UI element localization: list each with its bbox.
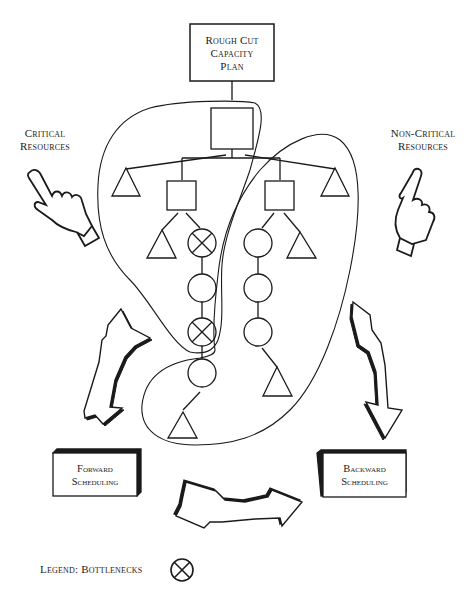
backward-arrow-icon: [350, 302, 402, 440]
label-line: Scheduling: [72, 475, 119, 488]
label-line: Rough Cut: [190, 34, 274, 47]
leaf-triangle: [263, 367, 292, 396]
critical-resources-label: Critical Resources: [6, 127, 84, 153]
legend-label: Legend: Bottlenecks: [40, 563, 170, 576]
leaf-triangle: [321, 168, 349, 196]
label-line: Plan: [190, 60, 274, 73]
operation-node: [244, 318, 272, 346]
label-line: Critical: [6, 127, 84, 140]
iteration-arrow-icon: [174, 480, 302, 528]
forward-scheduling-label: Forward Scheduling: [53, 453, 137, 496]
operation-node: [244, 274, 272, 302]
bottleneck-x-circle-icon: [171, 559, 193, 581]
leaf-triangle: [287, 232, 316, 258]
label-line: Resources: [6, 140, 84, 153]
leaf-triangle: [112, 168, 140, 196]
operation-node: [188, 359, 216, 387]
subassembly-node: [167, 181, 196, 210]
label-line: Backward: [343, 462, 385, 475]
tree-edge: [183, 392, 200, 410]
rough-cut-capacity-plan-label: Rough Cut Capacity Plan: [190, 34, 274, 73]
scheduling-diagram: [0, 0, 469, 597]
operation-node: [244, 229, 272, 257]
pointing-hand-right-icon: [396, 169, 435, 256]
leaf-triangle: [147, 230, 176, 258]
root-node: [211, 108, 253, 149]
tree-edge: [126, 155, 226, 169]
label-line: Capacity: [190, 47, 274, 60]
label-line: Resources: [377, 140, 469, 153]
pointing-hand-left-icon: [28, 170, 99, 246]
label-line: Non-Critical: [377, 127, 469, 140]
tree-edge: [245, 155, 335, 169]
tree-edge: [162, 213, 178, 230]
tree-edge: [186, 213, 200, 228]
label-line: Scheduling: [341, 475, 388, 488]
operation-node: [188, 274, 216, 302]
tree-edge: [262, 348, 277, 367]
tree-edge: [284, 213, 300, 232]
tree-edge: [262, 213, 274, 228]
non-critical-resources-label: Non-Critical Resources: [377, 127, 469, 153]
label-line: Forward: [77, 462, 113, 475]
backward-scheduling-label: Backward Scheduling: [323, 453, 406, 497]
subassembly-node: [265, 181, 294, 210]
leaf-triangle: [168, 412, 197, 438]
